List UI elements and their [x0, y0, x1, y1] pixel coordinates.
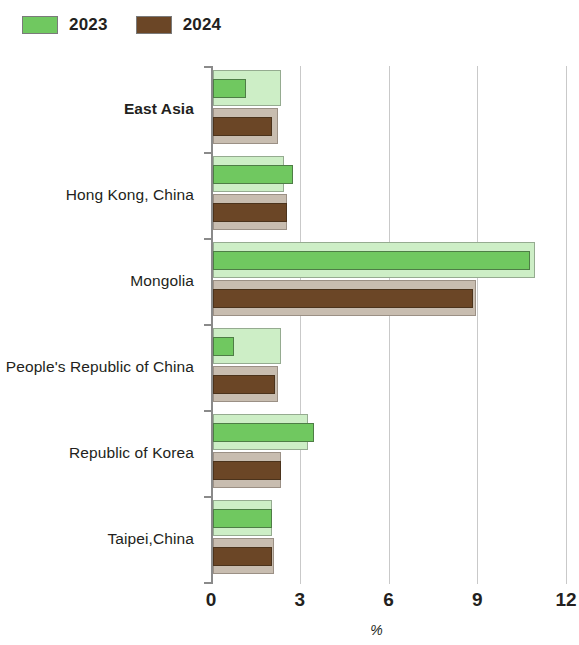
- x-tick-label-6: 6: [369, 589, 409, 611]
- legend-label-2023: 2023: [69, 15, 108, 35]
- category-label: Taipei,China: [0, 496, 202, 582]
- chart-row: Republic of Korea: [0, 410, 579, 496]
- bar-2023[interactable]: [213, 509, 272, 528]
- category-tick-6: [204, 582, 212, 584]
- bar-2024[interactable]: [213, 117, 272, 136]
- chart-legend: 2023 2024: [22, 12, 221, 38]
- category-label: Hong Kong, China: [0, 152, 202, 238]
- x-axis-title-text: %: [370, 622, 382, 638]
- legend-item-2024: 2024: [136, 15, 222, 35]
- category-label: Mongolia: [0, 238, 202, 324]
- legend-label-2024: 2024: [183, 15, 222, 35]
- x-tick-label-3: 3: [280, 589, 320, 611]
- bar-2023[interactable]: [213, 337, 234, 356]
- bar-2024[interactable]: [213, 375, 275, 394]
- chart-row: Taipei,China: [0, 496, 579, 582]
- x-tick-label-12: 12: [546, 589, 579, 611]
- bar-2024[interactable]: [213, 461, 281, 480]
- category-label: East Asia: [0, 66, 202, 152]
- legend-item-2023: 2023: [22, 15, 108, 35]
- bar-2024[interactable]: [213, 203, 287, 222]
- bar-2024[interactable]: [213, 547, 272, 566]
- bar-2024[interactable]: [213, 289, 473, 308]
- chart-row: Mongolia: [0, 238, 579, 324]
- bar-2023[interactable]: [213, 165, 293, 184]
- bar-chart: 2023 2024 East AsiaHong Kong, ChinaMongo…: [0, 0, 579, 645]
- x-axis-title: %: [0, 622, 579, 638]
- category-label: Republic of Korea: [0, 410, 202, 496]
- bar-2023[interactable]: [213, 423, 314, 442]
- x-tick-label-9: 9: [457, 589, 497, 611]
- bar-2023[interactable]: [213, 251, 530, 270]
- chart-row: People's Republic of China: [0, 324, 579, 410]
- x-tick-label-0: 0: [191, 589, 231, 611]
- legend-swatch-2023: [22, 16, 58, 34]
- chart-row: Hong Kong, China: [0, 152, 579, 238]
- bar-2023[interactable]: [213, 79, 246, 98]
- legend-swatch-2024: [136, 16, 172, 34]
- chart-row: East Asia: [0, 66, 579, 152]
- category-label: People's Republic of China: [0, 324, 202, 410]
